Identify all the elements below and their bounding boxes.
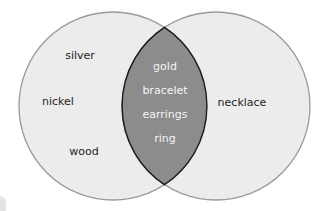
label-earrings: earrings: [142, 108, 187, 121]
label-ring: ring: [154, 132, 176, 145]
corner-artifact: [0, 196, 6, 211]
label-gold: gold: [153, 60, 177, 73]
label-nickel: nickel: [42, 95, 74, 108]
venn-diagram: silver nickel wood gold bracelet earring…: [0, 0, 325, 211]
label-necklace: necklace: [218, 96, 267, 109]
label-bracelet: bracelet: [142, 84, 188, 97]
label-silver: silver: [65, 49, 95, 62]
label-wood: wood: [69, 145, 98, 158]
